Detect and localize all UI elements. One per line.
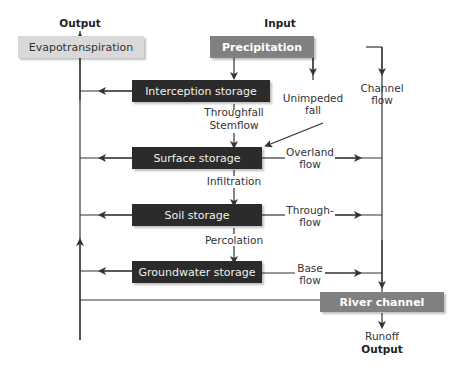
soil-storage-box: Soil storage [132,204,262,226]
unimpeded-label: Unimpeded [278,92,348,104]
base-label: Base [290,262,330,274]
precipitation-box: Precipitation [210,36,314,58]
infiltration-label: Infiltration [198,175,270,187]
overland-label: Overland [284,146,336,158]
throughfall-label: Throughfall [198,106,270,118]
stemflow-label: Stemflow [198,119,270,131]
output-header: Output [52,17,108,29]
runoff-label: Runoff [356,330,408,342]
base-flow-label: flow [290,274,330,286]
groundwater-storage-box: Groundwater storage [132,261,262,283]
through-label: Through- [284,204,336,216]
throughflow-label: flow [284,216,336,228]
output-bottom-header: Output [356,343,408,355]
fall-label: fall [278,104,348,116]
evapotranspiration-box: Evapotranspiration [18,36,144,58]
surface-storage-box: Surface storage [132,147,262,169]
channel-flow-label: flow [356,94,408,106]
channel-label: Channel [356,82,408,94]
percolation-label: Percolation [198,234,270,246]
overland-flow-label: flow [284,158,336,170]
interception-storage-box: Interception storage [132,80,270,102]
river-channel-box: River channel [320,292,444,312]
input-header: Input [255,17,305,29]
